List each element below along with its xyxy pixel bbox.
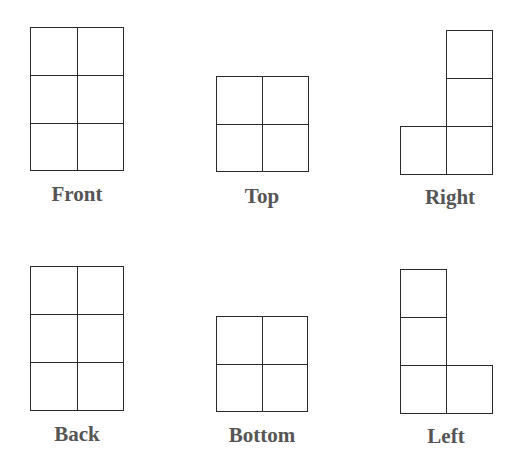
back-cell [77,314,124,363]
front-cell [77,75,124,124]
front-view [30,27,124,171]
left-cell [400,365,447,414]
top-view [216,76,309,172]
front-label: Front [17,184,137,205]
back-label: Back [17,424,137,445]
top-cell [262,76,309,125]
top-cell [216,76,263,125]
back-cell [30,362,78,411]
back-cell [30,314,78,363]
bottom-cell [216,364,263,412]
back-cell [30,266,78,315]
front-cell [30,123,78,171]
left-view [400,269,493,414]
bottom-label: Bottom [202,425,322,446]
right-cell [400,126,447,175]
left-label: Left [386,426,506,447]
right-cell [446,78,493,127]
front-cell [77,123,124,171]
left-cell [400,317,447,366]
right-view [400,30,493,175]
left-cell [446,365,493,414]
front-cell [77,27,124,76]
right-cell [446,30,493,79]
front-cell [30,27,78,76]
right-cell [446,126,493,175]
back-cell [77,266,124,315]
bottom-cell [262,316,308,365]
bottom-view [216,316,308,412]
bottom-cell [216,316,263,365]
front-cell [30,75,78,124]
back-view [30,266,124,411]
top-cell [262,124,309,172]
bottom-cell [262,364,308,412]
left-cell [400,269,447,318]
back-cell [77,362,124,411]
top-label: Top [202,186,322,207]
right-label: Right [390,187,510,208]
top-cell [216,124,263,172]
